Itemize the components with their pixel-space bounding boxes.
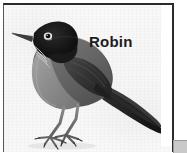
resize-corner-widget[interactable] xyxy=(173,140,187,153)
robin-image-card: Robin xyxy=(0,0,187,153)
frame-right-margin xyxy=(161,5,172,146)
robin-photograph: Robin xyxy=(4,5,172,152)
image-frame: Robin xyxy=(3,3,174,152)
bird-label: Robin xyxy=(89,34,133,50)
robin-illustration xyxy=(4,5,172,152)
